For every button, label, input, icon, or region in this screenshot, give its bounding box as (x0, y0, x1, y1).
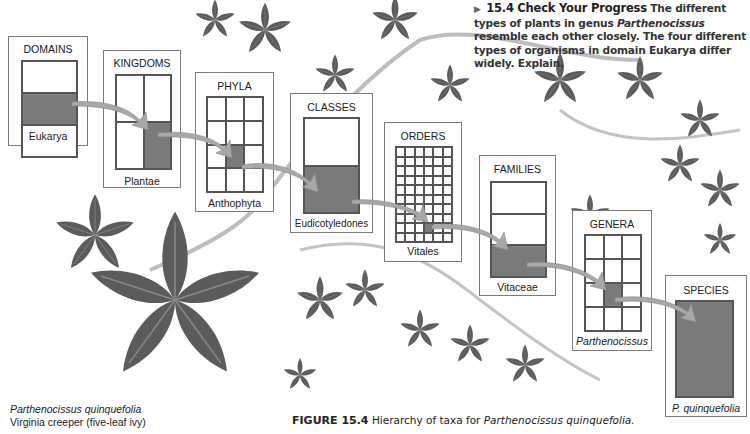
arrow-kingdom-to-phylum (158, 132, 232, 158)
plant-scientific-name: Parthenocissus quinquefolia (10, 403, 146, 416)
figure-species: Parthenocissus quinquefolia. (484, 414, 635, 426)
arrow-order-to-family (432, 224, 508, 250)
arrow-genus-to-species (615, 297, 696, 322)
arrow-domain-to-kingdom (72, 102, 148, 130)
figure-caption: FIGURE 15.4 Hierarchy of taxa for Parthe… (292, 414, 635, 427)
figure-text: Hierarchy of taxa for (372, 414, 481, 426)
plant-common-name: Virginia creeper (five-leaf ivy) (10, 416, 146, 429)
hierarchy-arrows (0, 0, 750, 434)
arrow-class-to-order (352, 200, 428, 222)
arrow-phylum-to-class (242, 164, 318, 192)
figure-label: FIGURE 15.4 (292, 414, 369, 427)
plant-caption: Parthenocissus quinquefolia Virginia cre… (10, 403, 146, 428)
arrow-family-to-genus (527, 262, 606, 290)
